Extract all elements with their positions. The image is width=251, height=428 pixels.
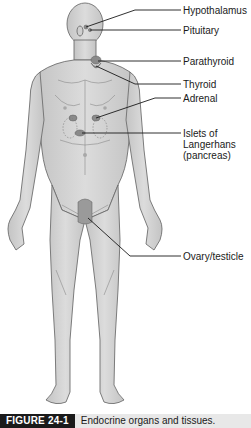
label-adrenal: Adrenal [183, 93, 217, 104]
label-hypothalamus: Hypothalamus [183, 5, 247, 16]
endocrine-figure: Hypothalamus Pituitary Parathyroid Thyro… [0, 0, 251, 428]
label-islets-of-langerhans: Islets of Langerhans (pancreas) [183, 128, 251, 161]
right-arm [126, 72, 162, 250]
label-ovary-testicle: Ovary/testicle [183, 251, 244, 262]
label-parathyroid: Parathyroid [183, 56, 234, 67]
figure-number-tag: FIGURE 24-1 [0, 414, 75, 428]
label-pituitary: Pituitary [183, 25, 219, 36]
label-thyroid: Thyroid [183, 79, 216, 90]
head [67, 3, 103, 45]
left-arm [8, 72, 44, 250]
figure-caption-text: Endocrine organs and tissues. [75, 414, 216, 428]
parathyroid-gland [91, 56, 101, 64]
figure-caption: FIGURE 24-1 Endocrine organs and tissues… [0, 414, 251, 428]
